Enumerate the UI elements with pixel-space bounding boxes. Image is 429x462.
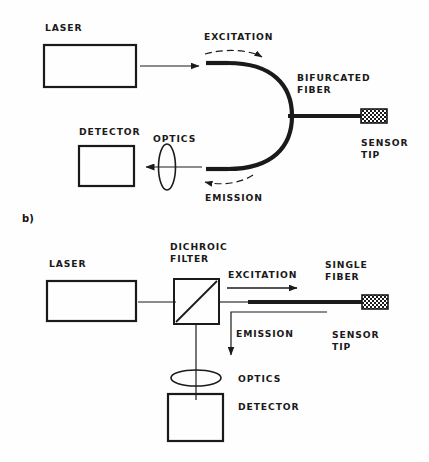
label-sensor-tip-a-line2: TIP (361, 149, 380, 161)
label-excitation-b: EXCITATION (228, 269, 297, 281)
label-optics-a: OPTICS (153, 133, 196, 145)
label-laser-a: LASER (45, 22, 82, 34)
excitation-curved-arrow-a (205, 50, 262, 57)
laser-box-b (47, 281, 136, 321)
label-detector-b: DETECTOR (238, 401, 300, 413)
label-dichroic-filter-line1: DICHROIC (170, 241, 228, 253)
label-single-fiber-line1: SINGLE (325, 259, 368, 271)
label-single-fiber-line2: FIBER (325, 271, 360, 283)
label-emission-b: EMISSION (236, 328, 294, 340)
fiber-optic-sensor-figure: LASER EXCITATION BIFURCATED FIBER SENSOR… (0, 0, 429, 462)
dichroic-filter-diagonal-b (176, 281, 217, 322)
detector-box-b (168, 394, 223, 441)
sensor-tip-body-a (361, 109, 387, 123)
emission-curved-arrow-a (205, 175, 253, 184)
label-bifurcated-fiber-line1: BIFURCATED (297, 72, 371, 84)
bifurcated-fiber-curve (228, 63, 292, 169)
label-bifurcated-fiber-line2: FIBER (297, 84, 332, 96)
label-sensor-tip-b-line1: SENSOR (332, 329, 379, 341)
label-sensor-tip-a-line1: SENSOR (361, 137, 408, 149)
sensor-tip-body-b (362, 295, 388, 309)
detector-box-a (79, 146, 134, 186)
label-excitation-a: EXCITATION (204, 31, 273, 43)
laser-box-a (44, 45, 136, 87)
diagram-canvas (0, 0, 429, 462)
label-laser-b: LASER (49, 258, 86, 270)
label-detector-a: DETECTOR (79, 126, 141, 138)
label-dichroic-filter-line2: FILTER (170, 253, 209, 265)
label-emission-a: EMISSION (205, 192, 263, 204)
label-optics-b: OPTICS (238, 373, 281, 385)
label-sensor-tip-b-line2: TIP (332, 341, 351, 353)
panel-tag-b: b) (22, 213, 34, 224)
